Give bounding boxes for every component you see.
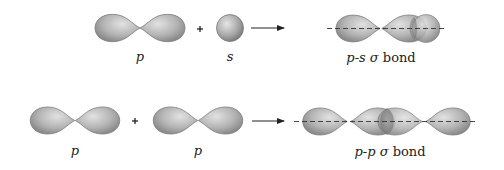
bond-word: bond bbox=[393, 144, 426, 159]
sigma-symbol: σ bbox=[370, 50, 379, 65]
p-p-bond-icon bbox=[294, 108, 478, 135]
label-p-p-sigma-bond: p-p σ bond bbox=[354, 145, 425, 158]
label-p-s-sigma-bond: p-s σ bond bbox=[346, 51, 415, 64]
label-s-top: s bbox=[227, 50, 234, 63]
s-orbital-icon bbox=[217, 15, 244, 42]
plus-icon bbox=[132, 118, 138, 124]
label-p-bottom-right: p bbox=[194, 144, 202, 157]
p-s-bond-icon bbox=[327, 15, 446, 43]
p-orbital-icon bbox=[30, 107, 119, 134]
row-p-p bbox=[30, 107, 478, 135]
row-p-s bbox=[95, 14, 446, 42]
bond-word: bond bbox=[383, 50, 416, 65]
sigma-symbol: σ bbox=[380, 144, 389, 159]
label-p-top: p bbox=[136, 50, 144, 63]
label-p-bottom-left: p bbox=[71, 144, 79, 157]
bond-type-prefix: p-s bbox=[346, 50, 365, 65]
bond-type-prefix: p-p bbox=[354, 144, 375, 159]
p-orbital-icon bbox=[95, 14, 185, 41]
p-orbital-icon bbox=[153, 107, 242, 134]
plus-icon bbox=[197, 26, 203, 32]
